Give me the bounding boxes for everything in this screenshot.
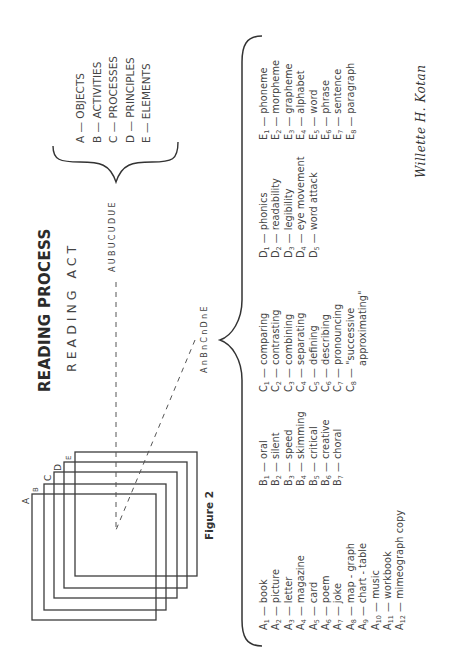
list-item: E7 — sentence: [332, 60, 344, 140]
list-item: C6 — describing: [320, 290, 332, 392]
list-item: B6 — creative: [320, 411, 332, 486]
list-item: E5 — word: [308, 60, 320, 140]
square-d: [64, 462, 187, 588]
list-item: C4 — separating: [295, 290, 307, 392]
square-c: [54, 472, 177, 598]
legend-item-b: B — ACTIVITIES: [89, 56, 106, 143]
list-item: E2 — morpheme: [270, 60, 282, 140]
legend-item-e: E — ELEMENTS: [138, 56, 155, 143]
list-item: C2 — contrasting: [270, 290, 282, 392]
list-item: A5 — card: [308, 510, 320, 630]
legend: A — OBJECTS B — ACTIVITIES C — PROCESSES…: [72, 56, 155, 143]
list-item: D3 — legibility: [283, 156, 295, 258]
list-item: B5 — critical: [308, 411, 320, 486]
list-item: B4 — skimming: [295, 411, 307, 486]
list-item: C1 — comparing: [258, 290, 270, 392]
list-item: E4 — alphabet: [295, 60, 307, 140]
list-item: C3 — combining: [283, 290, 295, 392]
square-e: [75, 452, 197, 576]
figure-caption: Figure 2: [203, 491, 215, 540]
square-label-d: D: [53, 464, 63, 471]
list-item: B7 — choral: [332, 411, 344, 486]
list-item: A10 — music: [370, 510, 382, 630]
list-elements: E1 — phoneme E2 — morpheme E3 — grapheme…: [258, 60, 357, 140]
list-item: B2 — silent: [270, 411, 282, 486]
list-item: E1 — phoneme: [258, 60, 270, 140]
union-label: AUBUCUDUE: [108, 200, 117, 272]
list-item: approximating": [357, 290, 369, 392]
page-subtitle: READING ACT: [64, 242, 79, 372]
square-label-a: A: [21, 498, 31, 504]
list-item: D5 — word attack: [308, 156, 320, 258]
list-item: C8 — "successive: [345, 290, 357, 392]
list-item: A1 — book: [258, 510, 270, 630]
intersection-label: AnBnCnDnE: [200, 304, 209, 373]
list-item: A6 — poem: [320, 510, 332, 630]
legend-item-d: D — PRINCIPLES: [122, 56, 139, 143]
list-item: A8 — map - graph: [345, 510, 357, 630]
lists-brace: [220, 36, 262, 646]
page-title: READING PROCESS: [36, 228, 54, 392]
legend-item-a: A — OBJECTS: [72, 56, 89, 143]
list-item: A11 — workbook: [382, 510, 394, 630]
list-item: A7 — joke: [332, 510, 344, 630]
square-label-e: E: [65, 456, 73, 460]
list-item: C7 — pronouncing: [332, 290, 344, 392]
list-item: A3 — letter: [283, 510, 295, 630]
list-item: E6 — phrase: [320, 60, 332, 140]
list-objects: A1 — book A2 — picture A3 — letter A4 — …: [258, 510, 407, 630]
legend-item-c: C — PROCESSES: [105, 56, 122, 143]
square-b: [44, 484, 166, 610]
list-item: E3 — grapheme: [283, 60, 295, 140]
square-label-b: B: [32, 487, 40, 492]
list-item: D4 — eye movement: [295, 156, 307, 258]
list-item: B1 — oral: [258, 411, 270, 486]
list-item: D2 — readability: [270, 156, 282, 258]
list-item: A9 — chart - table: [357, 510, 369, 630]
list-item: C5 — defining: [308, 290, 320, 392]
list-item: E8 — paragraph: [345, 60, 357, 140]
list-activities: B1 — oral B2 — silent B3 — speed B4 — sk…: [258, 411, 345, 486]
list-processes: C1 — comparing C2 — contrasting C3 — com…: [258, 290, 370, 392]
list-item: D1 — phonics: [258, 156, 270, 258]
list-item: A2 — picture: [270, 510, 282, 630]
legend-brace: [53, 142, 178, 182]
list-principles: D1 — phonics D2 — readability D3 — legib…: [258, 156, 320, 258]
list-item: B3 — speed: [283, 411, 295, 486]
list-item: A12 — mimeograph copy: [394, 510, 406, 630]
author-signature: Willette H. Kotan: [414, 65, 428, 178]
list-item: A4 — magazine: [295, 510, 307, 630]
square-label-c: C: [43, 475, 53, 481]
square-a: [32, 494, 156, 620]
